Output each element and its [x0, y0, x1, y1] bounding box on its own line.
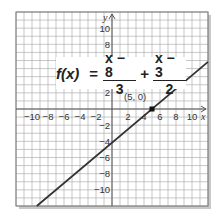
- y-tick-label: −6: [99, 152, 110, 163]
- x-axis-label: x: [200, 111, 206, 122]
- fraction-1-denominator: 3: [116, 81, 124, 96]
- y-tick-label: −10: [94, 184, 110, 195]
- x-tick-label: −6: [59, 111, 70, 122]
- x-tick-label: −10: [24, 111, 40, 122]
- x-tick-label: −4: [75, 111, 86, 122]
- x-tick-label: 2: [125, 111, 130, 122]
- point-label: (5, 0): [124, 91, 146, 102]
- fraction-2-denominator: 2: [166, 81, 174, 96]
- y-tick-label: 10: [99, 23, 110, 34]
- equation-box: f(x) = x − 8 3 + x − 3 2: [56, 57, 186, 89]
- fraction-2-numerator: x − 3: [153, 51, 186, 81]
- fraction-1: x − 8 3: [103, 51, 136, 96]
- equals-sign: =: [89, 65, 98, 82]
- equation-lhs: f(x): [56, 65, 79, 82]
- plus-sign: +: [140, 65, 149, 82]
- x-tick-label: −8: [43, 111, 54, 122]
- x-tick-label: 6: [157, 111, 162, 122]
- x-tick-label: 10: [187, 111, 198, 122]
- y-tick-label: −8: [99, 168, 110, 179]
- point-marker: [150, 107, 155, 112]
- coordinate-plane: xy −10−8−6−4−22468101082−2−4−6−8−10: [0, 0, 221, 219]
- y-tick-label: −2: [99, 120, 110, 131]
- x-tick-label: 8: [173, 111, 178, 122]
- fraction-2: x − 3 2: [153, 51, 186, 96]
- point-marker-dot: [150, 107, 155, 112]
- fraction-1-numerator: x − 8: [103, 51, 136, 81]
- y-tick-label: 8: [105, 39, 110, 50]
- y-axis-label: y: [102, 12, 108, 23]
